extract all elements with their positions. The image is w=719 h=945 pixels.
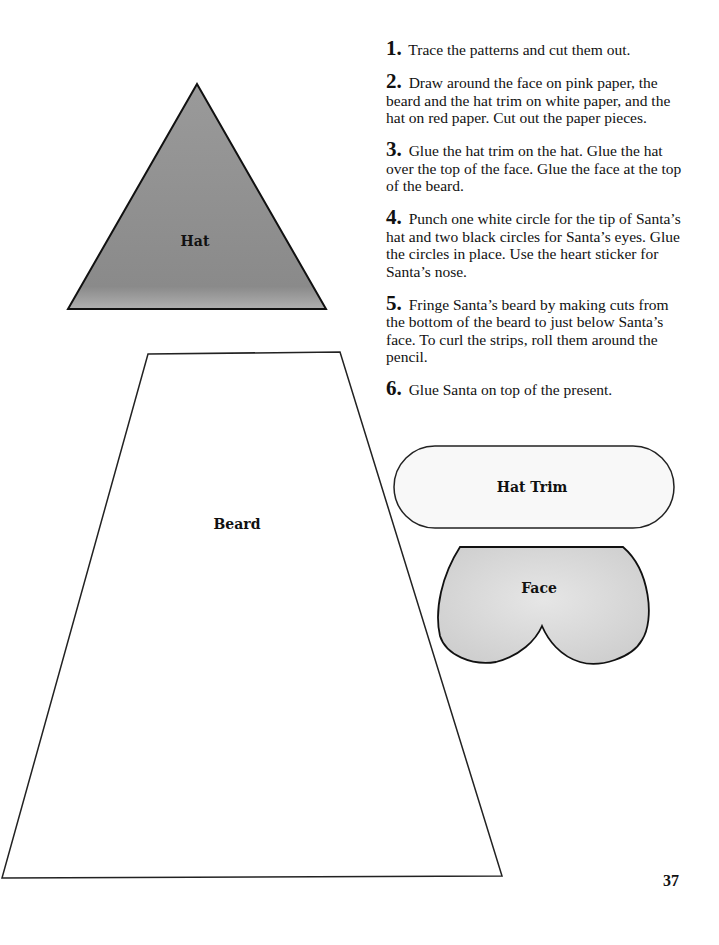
- instructions-list: 1. Trace the patterns and cut them out. …: [386, 40, 686, 413]
- face-label: Face: [521, 580, 557, 596]
- hat-trim-label: Hat Trim: [497, 479, 568, 495]
- step-text: Draw around the face on pink paper, the …: [386, 74, 670, 126]
- step-text: Fringe Santa’s beard by making cuts from…: [386, 296, 669, 366]
- step-number: 3.: [386, 137, 402, 161]
- step-text: Punch one white circle for the tip of Sa…: [386, 210, 681, 280]
- step-text: Glue the hat trim on the hat. Glue the h…: [386, 142, 681, 194]
- step-number: 2.: [386, 69, 402, 93]
- face-pattern: [438, 547, 649, 664]
- beard-label: Beard: [214, 516, 261, 532]
- step-text: Glue Santa on top of the present.: [409, 381, 613, 398]
- instruction-step: 1. Trace the patterns and cut them out.: [386, 40, 686, 59]
- instruction-step: 6. Glue Santa on top of the present.: [386, 380, 686, 399]
- instruction-step: 2. Draw around the face on pink paper, t…: [386, 73, 686, 127]
- step-number: 4.: [386, 205, 402, 229]
- hat-pattern: [68, 84, 326, 309]
- step-number: 6.: [386, 376, 402, 400]
- instruction-step: 5. Fringe Santa’s beard by making cuts f…: [386, 295, 686, 366]
- hat-label: Hat: [181, 233, 210, 249]
- step-number: 5.: [386, 291, 402, 315]
- page-number: 37: [663, 872, 679, 890]
- instruction-step: 4. Punch one white circle for the tip of…: [386, 209, 686, 280]
- step-text: Trace the patterns and cut them out.: [408, 41, 630, 58]
- step-number: 1.: [386, 36, 402, 60]
- beard-pattern: [2, 352, 502, 878]
- instruction-step: 3. Glue the hat trim on the hat. Glue th…: [386, 141, 686, 195]
